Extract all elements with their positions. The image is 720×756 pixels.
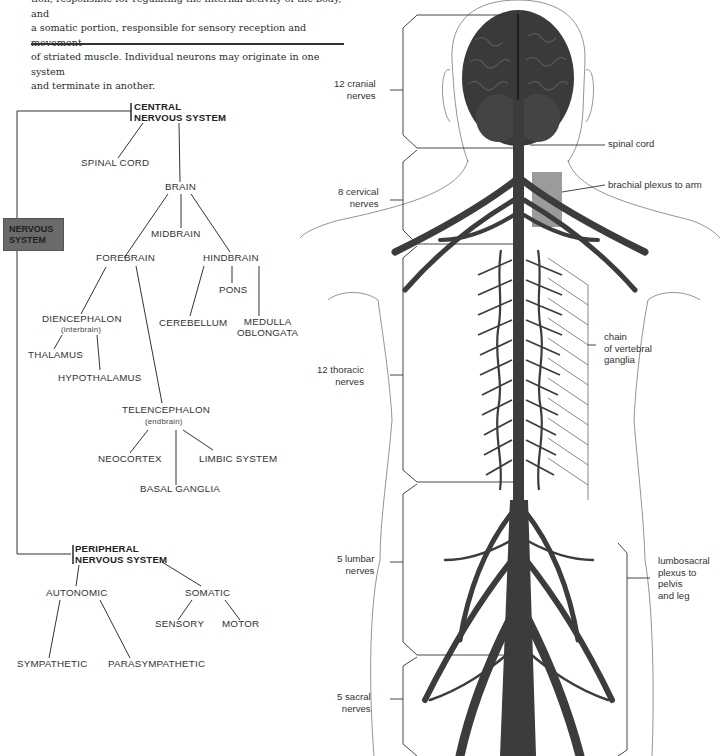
medulla-line-1: MEDULLA — [237, 316, 298, 327]
label-lumbar-nerves: 5 lumbar nerves — [337, 553, 374, 576]
lumbo-line-1: lumbosacral — [658, 555, 710, 567]
cns-line-1: CENTRAL — [134, 101, 226, 112]
label-cervical-nerves: 8 cervical nerves — [338, 186, 379, 209]
chain-line-1: chain — [604, 331, 652, 343]
sacral-line-1: 5 sacral — [337, 691, 371, 703]
thoracic-line-2: nerves — [317, 376, 364, 388]
label-brachial-plexus: brachial plexus to arm — [608, 179, 702, 191]
pns-line-2: NERVOUS SYSTEM — [75, 554, 167, 565]
nervous-system-hierarchy: NERVOUS SYSTEM CENTRAL NERVOUS SYSTEM SP… — [0, 0, 310, 756]
spinal-cord-illustration — [500, 100, 536, 756]
medulla-node: MEDULLA OBLONGATA — [237, 316, 298, 338]
label-vertebral-ganglia: chain of vertebral ganglia — [604, 331, 652, 366]
diencephalon-node: DIENCEPHALON — [42, 313, 122, 324]
sacral-line-2: nerves — [337, 703, 371, 715]
lumbo-line-4: and leg — [658, 590, 710, 602]
thalamus-node: THALAMUS — [28, 349, 83, 360]
motor-node: MOTOR — [222, 618, 259, 629]
label-sacral-nerves: 5 sacral nerves — [337, 691, 371, 714]
cervical-line-1: 8 cervical — [338, 186, 379, 198]
chain-line-2: of vertebral — [604, 343, 652, 355]
thoracic-line-1: 12 thoracic — [317, 364, 364, 376]
label-cranial-nerves: 12 cranial nerves — [334, 78, 376, 101]
cerebellum-node: CEREBELLUM — [159, 317, 227, 328]
root-line-1: NERVOUS — [9, 224, 53, 235]
lumbar-line-2: nerves — [337, 565, 374, 577]
chain-indicator-lines — [548, 258, 588, 500]
medulla-line-2: OBLONGATA — [237, 327, 298, 338]
cranial-line-2: nerves — [334, 90, 376, 102]
forebrain-node: FOREBRAIN — [96, 252, 155, 263]
lumbo-line-2: plexus to — [658, 567, 710, 579]
cranial-line-1: 12 cranial — [334, 78, 376, 90]
chain-line-3: ganglia — [604, 354, 652, 366]
diencephalon-note: (interbrain) — [61, 325, 101, 334]
hypothalamus-node: HYPOTHALAMUS — [58, 372, 142, 383]
pns-line-1: PERIPHERAL — [75, 543, 167, 554]
lumbo-line-3: pelvis — [658, 578, 710, 590]
cervical-line-2: nerves — [338, 198, 379, 210]
pns-label: PERIPHERAL NERVOUS SYSTEM — [75, 543, 167, 565]
telencephalon-note: (endbrain) — [145, 417, 183, 426]
cns-label: CENTRAL NERVOUS SYSTEM — [134, 101, 226, 123]
lumbar-line-1: 5 lumbar — [337, 553, 374, 565]
brain-node: BRAIN — [165, 181, 196, 192]
label-thoracic-nerves: 12 thoracic nerves — [317, 364, 364, 387]
autonomic-node: AUTONOMIC — [46, 587, 108, 598]
hindbrain-node: HINDBRAIN — [203, 252, 259, 263]
label-lumbosacral-plexus: lumbosacral plexus to pelvis and leg — [658, 555, 710, 601]
midbrain-node: MIDBRAIN — [151, 228, 201, 239]
sensory-node: SENSORY — [155, 618, 204, 629]
nervous-system-box: NERVOUS SYSTEM — [3, 218, 64, 251]
limbic-system-node: LIMBIC SYSTEM — [199, 453, 277, 464]
cns-line-2: NERVOUS SYSTEM — [134, 112, 226, 123]
root-line-2: SYSTEM — [9, 235, 53, 246]
basal-ganglia-node: BASAL GANGLIA — [140, 483, 220, 494]
label-spinal-cord: spinal cord — [608, 138, 654, 150]
nervous-system-label: NERVOUS SYSTEM — [9, 224, 53, 246]
telencephalon-node: TELENCEPHALON — [122, 404, 210, 415]
pons-node: PONS — [219, 284, 248, 295]
sympathetic-node: SYMPATHETIC — [17, 658, 87, 669]
anatomical-figure: 12 cranial nerves spinal cord brachial p… — [300, 0, 720, 756]
parasympathetic-node: PARASYMPATHETIC — [108, 658, 205, 669]
neocortex-node: NEOCORTEX — [98, 453, 162, 464]
somatic-node: SOMATIC — [185, 587, 230, 598]
spinal-cord-node: SPINAL CORD — [81, 157, 149, 168]
